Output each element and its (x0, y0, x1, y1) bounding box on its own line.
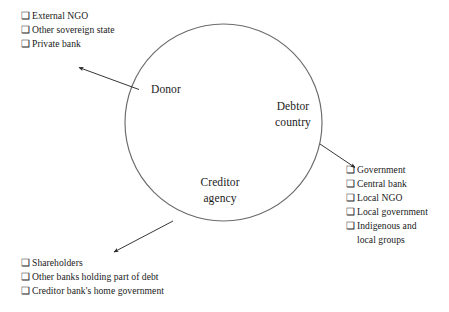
list-item: ❑Indigenous and local groups (346, 219, 446, 247)
list-item: ❑Local NGO (346, 191, 446, 205)
donor-actor-list: ❑External NGO❑Other sovereign state❑Priv… (21, 9, 191, 51)
bullet-square-icon: ❑ (21, 270, 29, 284)
list-item-label: Other sovereign state (32, 24, 115, 35)
bullet-square-icon: ❑ (346, 205, 354, 219)
list-item-label: Central bank (357, 178, 407, 189)
bullet-square-icon: ❑ (346, 191, 354, 205)
list-item: ❑Other banks holding part of debt (21, 270, 231, 284)
bullet-square-icon: ❑ (21, 256, 29, 270)
role-label-donor: Donor (151, 82, 181, 98)
list-item-label: Local government (357, 206, 428, 217)
list-item: ❑Local government (346, 205, 446, 219)
diagram-canvas: Donor Debtor country Creditor agency ❑Ex… (0, 0, 449, 312)
role-label-debtor: Debtor country (258, 99, 328, 130)
creditor-actor-list: ❑Shareholders❑Other banks holding part o… (21, 256, 231, 298)
bullet-square-icon: ❑ (21, 9, 29, 23)
creditor-arrow (114, 221, 173, 252)
list-item: ❑Government (346, 163, 446, 177)
donor-arrow (79, 68, 139, 90)
list-item-label: Shareholders (32, 257, 83, 268)
bullet-square-icon: ❑ (21, 23, 29, 37)
list-item: ❑Creditor bank's home government (21, 284, 231, 298)
list-item: ❑Other sovereign state (21, 23, 191, 37)
list-item: ❑Shareholders (21, 256, 231, 270)
bullet-square-icon: ❑ (346, 177, 354, 191)
list-item-label: Government (357, 164, 405, 175)
bullet-square-icon: ❑ (346, 219, 354, 233)
list-item-label: External NGO (32, 10, 88, 21)
bullet-square-icon: ❑ (21, 284, 29, 298)
list-item: ❑External NGO (21, 9, 191, 23)
role-label-creditor: Creditor agency (183, 175, 257, 206)
bullet-square-icon: ❑ (346, 163, 354, 177)
list-item-label: Creditor bank's home government (32, 285, 164, 296)
debtor-actor-list: ❑Government❑Central bank❑Local NGO❑Local… (346, 163, 446, 247)
list-item: ❑Central bank (346, 177, 446, 191)
list-item-label: Indigenous and local groups (357, 220, 417, 245)
list-item-label: Local NGO (357, 192, 402, 203)
list-item-label: Other banks holding part of debt (32, 271, 159, 282)
list-item: ❑Private bank (21, 37, 191, 51)
list-item-label: Private bank (32, 38, 81, 49)
bullet-square-icon: ❑ (21, 37, 29, 51)
